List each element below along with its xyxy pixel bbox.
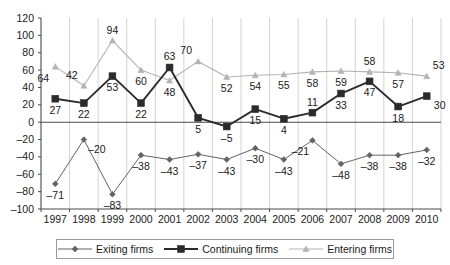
data-label: –48 <box>328 170 354 181</box>
data-label: –38 <box>357 161 383 172</box>
data-label: 59 <box>328 77 354 88</box>
data-label: 54 <box>242 81 268 92</box>
legend-item-label: Exiting firms <box>96 243 153 255</box>
x-axis-tick: 2010 <box>412 214 442 225</box>
y-axis-tick: 60 <box>2 65 34 76</box>
data-label: –43 <box>157 166 183 177</box>
x-axis-tick: 1999 <box>97 214 127 225</box>
x-axis-tick: 2004 <box>240 214 270 225</box>
data-label: 11 <box>299 97 325 108</box>
data-label: 33 <box>328 100 354 111</box>
data-label: –83 <box>99 200 125 211</box>
legend-item-label: Entering firms <box>327 243 392 255</box>
x-axis-tick: 2008 <box>355 214 385 225</box>
data-label: 4 <box>271 125 297 136</box>
data-label: 22 <box>128 109 154 120</box>
data-label: 58 <box>299 78 325 89</box>
y-axis-tick: 120 <box>2 13 34 24</box>
data-label: 52 <box>214 83 240 94</box>
data-label: 64 <box>30 73 56 84</box>
data-label: 55 <box>271 80 297 91</box>
data-label: 58 <box>357 56 383 67</box>
diamond-marker-icon <box>58 243 92 255</box>
data-label: –30 <box>242 154 268 165</box>
data-label: –43 <box>271 166 297 177</box>
data-label: –20 <box>84 144 110 155</box>
x-axis-tick: 2005 <box>269 214 299 225</box>
data-label: –5 <box>214 133 240 144</box>
x-axis-tick: 2009 <box>383 214 413 225</box>
triangle-marker-icon <box>289 243 323 255</box>
data-label: –21 <box>287 146 313 157</box>
legend-item-triangle[interactable]: Entering firms <box>289 243 392 255</box>
y-axis-tick: 0 <box>2 117 34 128</box>
legend-item-label: Continuing firms <box>202 243 278 255</box>
x-axis-tick: 2002 <box>183 214 213 225</box>
data-label: 53 <box>426 60 450 71</box>
data-label: 57 <box>385 79 411 90</box>
x-axis-tick: 2000 <box>126 214 156 225</box>
y-axis-tick: –40 <box>2 151 34 162</box>
y-axis-tick: 40 <box>2 82 34 93</box>
y-axis-tick: –60 <box>2 169 34 180</box>
y-axis-tick: –80 <box>2 186 34 197</box>
x-axis-tick: 2007 <box>326 214 356 225</box>
data-label: –32 <box>414 156 440 167</box>
data-label: 5 <box>185 124 211 135</box>
data-label: 94 <box>99 25 125 36</box>
data-label: 47 <box>357 87 383 98</box>
square-marker-icon <box>164 243 198 255</box>
y-axis-tick: 20 <box>2 99 34 110</box>
data-label: 48 <box>157 87 183 98</box>
x-axis-tick: 1997 <box>40 214 70 225</box>
legend-item-square[interactable]: Continuing firms <box>164 243 278 255</box>
data-label: 27 <box>42 105 68 116</box>
data-label: –38 <box>385 161 411 172</box>
x-axis-tick: 2001 <box>155 214 185 225</box>
data-label: 15 <box>242 115 268 126</box>
data-label: –37 <box>185 160 211 171</box>
y-axis-tick: –20 <box>2 134 34 145</box>
legend-item-diamond[interactable]: Exiting firms <box>58 243 153 255</box>
data-label: 22 <box>71 109 97 120</box>
y-axis-tick: 80 <box>2 47 34 58</box>
x-axis-tick: 2003 <box>212 214 242 225</box>
chart-legend: Exiting firmsContinuing firmsEntering fi… <box>56 239 394 259</box>
x-axis-tick: 2006 <box>297 214 327 225</box>
data-label: 53 <box>99 82 125 93</box>
y-axis-tick: 100 <box>2 30 34 41</box>
data-label: 30 <box>427 100 450 111</box>
data-label: 18 <box>385 113 411 124</box>
x-axis-tick: 1998 <box>69 214 99 225</box>
chart-container: 120100806040200–20–40–60–80–100 19971998… <box>0 0 450 265</box>
y-axis-tick: –100 <box>2 204 34 215</box>
data-label: 60 <box>128 76 154 87</box>
data-label: –43 <box>214 166 240 177</box>
data-label: 42 <box>59 70 85 81</box>
data-label: –71 <box>42 190 68 201</box>
data-label: 70 <box>173 45 199 56</box>
data-label: –38 <box>128 161 154 172</box>
